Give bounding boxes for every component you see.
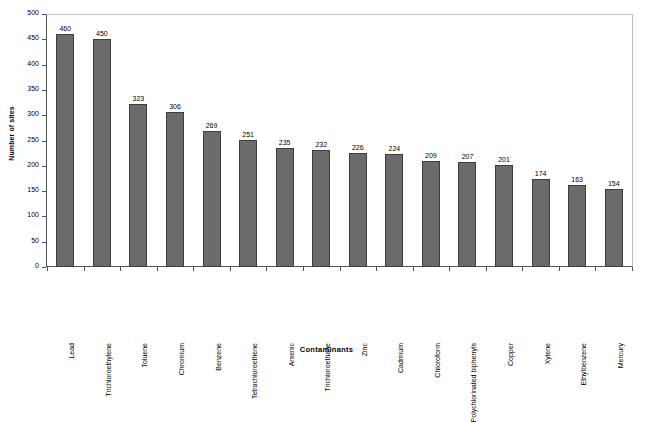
y-axis-tick-mark [42, 267, 46, 268]
bar-group: 323 [129, 14, 147, 267]
bar-group: 232 [312, 14, 330, 267]
bar-group: 306 [166, 14, 184, 267]
bar-value-label: 224 [371, 145, 417, 152]
bar [495, 165, 513, 267]
y-axis-tick-label: 400 [27, 60, 39, 67]
bar-group: 154 [605, 14, 623, 267]
bar-group: 207 [458, 14, 476, 267]
bar-value-label: 201 [481, 156, 527, 163]
bar-group: 235 [276, 14, 294, 267]
y-axis-tick-mark [42, 216, 46, 217]
bar [385, 154, 403, 267]
y-axis-tick-mark [42, 115, 46, 116]
y-axis-tick-label: 350 [27, 85, 39, 92]
bar [129, 104, 147, 267]
y-axis-tick-label: 300 [27, 110, 39, 117]
bar [532, 179, 550, 267]
bar-value-label: 306 [152, 103, 198, 110]
y-axis-tick-label: 100 [27, 211, 39, 218]
y-axis-tick-mark [42, 39, 46, 40]
bar [276, 148, 294, 267]
y-axis-tick-label: 0 [35, 262, 39, 269]
y-axis-title: Number of sites [8, 84, 15, 184]
bar-group: 174 [532, 14, 550, 267]
bar [458, 162, 476, 267]
bar-group: 209 [422, 14, 440, 267]
bar [56, 34, 74, 267]
y-axis-tick-mark [42, 14, 46, 15]
y-axis-tick-mark [42, 90, 46, 91]
y-axis-tick-label: 250 [27, 136, 39, 143]
bar-group: 251 [239, 14, 257, 267]
bar [349, 153, 367, 267]
y-axis-tick-mark [42, 141, 46, 142]
bar-value-label: 154 [591, 180, 637, 187]
bars-layer: 4604503233062692512352322262242092072011… [47, 14, 632, 267]
y-axis-tick-label: 150 [27, 186, 39, 193]
x-axis-labels: LeadTrichloroethyleneTolueneChromiumBenz… [47, 271, 632, 351]
y-axis-tick-mark [42, 191, 46, 192]
y-axis-tick-label: 50 [31, 237, 39, 244]
y-axis-tick-label: 450 [27, 34, 39, 41]
y-axis-tick-mark [42, 242, 46, 243]
bar-value-label: 450 [79, 30, 125, 37]
bar-group: 450 [93, 14, 111, 267]
x-axis-tick-mark [632, 267, 633, 271]
bar-group: 226 [349, 14, 367, 267]
y-axis-tick-label: 500 [27, 9, 39, 16]
bar [93, 39, 111, 267]
bar [568, 185, 586, 267]
bar-group: 224 [385, 14, 403, 267]
bar-group: 201 [495, 14, 513, 267]
y-axis-tick-mark [42, 65, 46, 66]
y-axis-tick-label: 200 [27, 161, 39, 168]
bar [239, 140, 257, 267]
bar-group: 163 [568, 14, 586, 267]
bar [312, 150, 330, 267]
bar [422, 161, 440, 267]
x-axis-category-text: Polychlorinated biphenyls [470, 343, 477, 422]
y-axis-tick-mark [42, 166, 46, 167]
bar [203, 131, 221, 267]
bar [605, 189, 623, 267]
bar [166, 112, 184, 267]
bar-value-label: 251 [225, 131, 271, 138]
bar-value-label: 269 [189, 122, 235, 129]
x-axis-title: Contaminants [0, 345, 653, 354]
bar-group: 269 [203, 14, 221, 267]
bar-group: 460 [56, 14, 74, 267]
bar-value-label: 323 [115, 95, 161, 102]
